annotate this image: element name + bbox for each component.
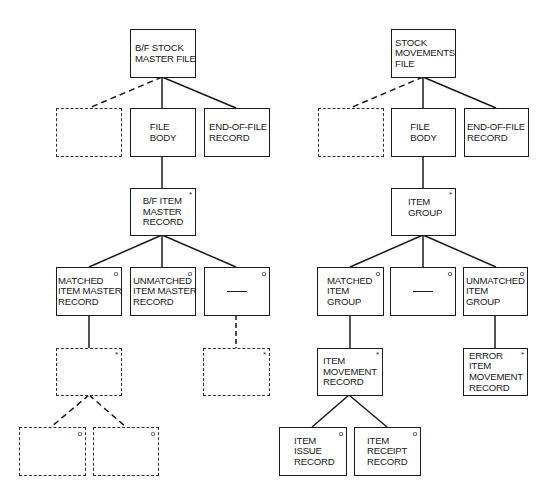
selection-marker-icon: o <box>520 270 524 278</box>
node-label: FILE BODY <box>150 122 176 143</box>
selection-marker-icon: o <box>339 430 343 438</box>
selection-marker-icon: o <box>114 270 118 278</box>
node-file-body: FILE BODY <box>391 108 456 157</box>
node-label: FILE BODY <box>410 122 436 143</box>
node-label: UNMATCHED ITEM GROUP <box>464 276 525 308</box>
iteration-marker-icon: * <box>115 351 118 359</box>
node-empty-iteration-left: * <box>56 348 122 396</box>
node-error-item-movement-record: ERROR ITEM MOVEMENT RECORD * <box>463 348 528 396</box>
node-unmatched-item-group: UNMATCHED ITEM GROUP o <box>463 267 528 316</box>
node-empty-selection-a: o <box>19 427 86 476</box>
node-label: END-OF-FILE RECORD <box>205 122 267 143</box>
node-label: ITEM RECEIPT RECORD <box>355 436 407 468</box>
selection-marker-icon: o <box>262 270 266 278</box>
node-empty-header <box>318 108 384 157</box>
node-end-of-file-record: END-OF-FILE RECORD <box>204 108 270 157</box>
node-null-selection: o <box>204 267 270 316</box>
node-unmatched-item-master-record: UNMATCHED ITEM MASTER RECORD o <box>130 267 196 316</box>
null-dash-icon <box>227 291 247 292</box>
node-end-of-file-record: END-OF-FILE RECORD <box>464 108 529 157</box>
node-label: ITEM ISSUE RECORD <box>280 436 334 468</box>
selection-marker-icon: o <box>413 430 417 438</box>
node-label: ERROR ITEM MOVEMENT RECORD <box>464 351 523 393</box>
node-empty-selection-b: o <box>93 427 159 476</box>
iteration-marker-icon: * <box>189 191 192 199</box>
node-null-selection: o <box>390 267 456 316</box>
node-matched-item-master-record: MATCHED ITEM MASTER RECORD o <box>56 267 122 316</box>
node-label: B/F STOCK MASTER FILE <box>131 43 196 64</box>
node-label: ITEM GROUP <box>392 197 442 218</box>
null-dash-icon <box>413 291 433 292</box>
node-label: END-OF-FILE RECORD <box>465 122 525 143</box>
node-item-issue-record: ITEM ISSUE RECORD o <box>279 427 347 476</box>
selection-marker-icon: o <box>151 430 155 438</box>
iteration-marker-icon: * <box>449 191 452 199</box>
node-item-receipt-record: ITEM RECEIPT RECORD o <box>354 427 421 476</box>
node-label: ITEM MOVEMENT RECORD <box>318 356 377 388</box>
selection-marker-icon: o <box>78 430 82 438</box>
selection-marker-icon: o <box>448 270 452 278</box>
node-stock-movements-file: STOCK MOVEMENTS FILE <box>391 29 456 78</box>
node-label: UNMATCHED ITEM MASTER RECORD <box>131 276 196 308</box>
node-empty-header <box>56 108 122 157</box>
node-bf-stock-master-file: B/F STOCK MASTER FILE <box>130 29 196 78</box>
node-item-group: ITEM GROUP * <box>391 188 456 236</box>
node-bf-item-master-record: B/F ITEM MASTER RECORD * <box>130 188 196 236</box>
node-file-body: FILE BODY <box>130 108 196 157</box>
iteration-marker-icon: * <box>263 351 266 359</box>
node-label: STOCK MOVEMENTS FILE <box>392 38 455 70</box>
iteration-marker-icon: * <box>376 351 379 359</box>
node-label: B/F ITEM MASTER RECORD <box>143 196 183 228</box>
iteration-marker-icon: * <box>521 351 524 359</box>
selection-marker-icon: o <box>376 270 380 278</box>
node-label: MATCHED ITEM MASTER RECORD <box>57 276 121 308</box>
node-empty-iteration-right: * <box>203 348 270 396</box>
selection-marker-icon: o <box>188 270 192 278</box>
node-item-movement-record: ITEM MOVEMENT RECORD * <box>317 348 383 396</box>
node-label: MATCHED ITEM GROUP <box>318 276 372 308</box>
node-matched-item-group: MATCHED ITEM GROUP o <box>317 267 384 316</box>
